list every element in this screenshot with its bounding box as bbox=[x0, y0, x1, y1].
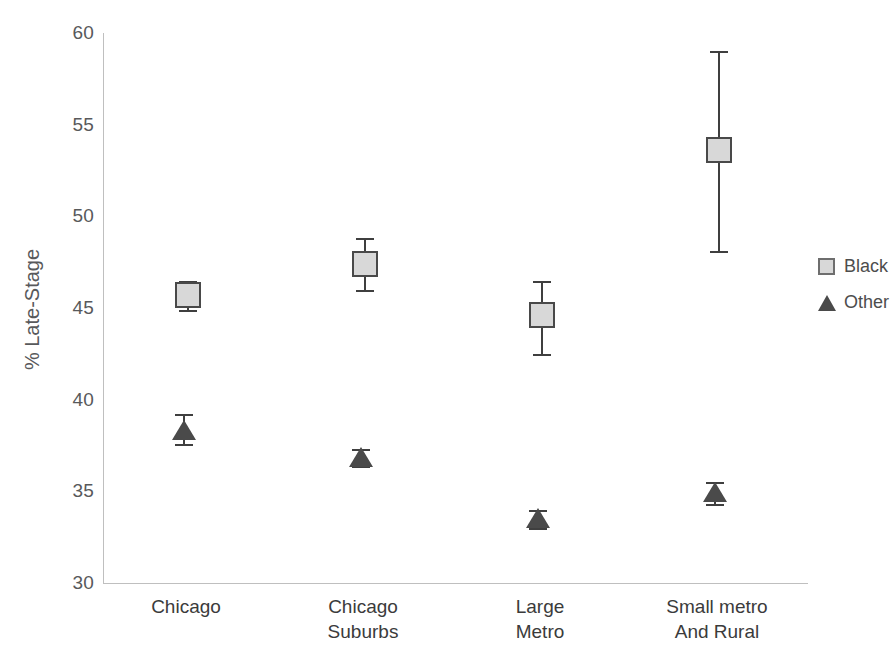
error-bar-cap-upper bbox=[710, 51, 728, 53]
legend-item-label: Black bbox=[844, 256, 888, 277]
square-marker-icon bbox=[352, 251, 378, 277]
plot-area bbox=[0, 0, 894, 672]
error-bar-cap-lower bbox=[533, 354, 551, 356]
legend-item-black[interactable]: Black bbox=[818, 248, 894, 284]
legend-item-label: Other bbox=[844, 292, 889, 313]
error-bar-cap-lower bbox=[179, 310, 197, 312]
chart-legend: BlackOther bbox=[818, 248, 894, 320]
square-marker-icon bbox=[175, 282, 201, 308]
error-bar-cap-lower bbox=[529, 528, 547, 530]
triangle-marker-icon bbox=[703, 482, 727, 502]
triangle-marker-icon bbox=[818, 292, 838, 312]
error-bar-cap-upper bbox=[175, 414, 193, 416]
error-bar-cap-lower bbox=[710, 251, 728, 253]
error-bar-cap-lower bbox=[175, 444, 193, 446]
triangle-marker-icon bbox=[526, 508, 550, 528]
square-marker-icon-shape bbox=[818, 258, 835, 275]
error-bar-cap-upper bbox=[533, 281, 551, 283]
square-marker-icon bbox=[529, 302, 555, 328]
square-marker-icon bbox=[818, 256, 838, 276]
error-bar-cap-lower bbox=[706, 504, 724, 506]
triangle-marker-icon bbox=[349, 447, 373, 467]
error-bar-cap-upper bbox=[356, 238, 374, 240]
legend-item-other[interactable]: Other bbox=[818, 284, 894, 320]
error-bar-cap-lower bbox=[356, 290, 374, 292]
triangle-marker-icon-shape bbox=[818, 295, 836, 311]
square-marker-icon bbox=[706, 137, 732, 163]
scatter-chart: % Late-Stage 60555045403530 ChicagoChica… bbox=[0, 0, 894, 672]
triangle-marker-icon bbox=[172, 420, 196, 440]
